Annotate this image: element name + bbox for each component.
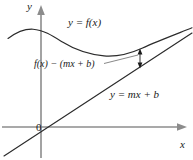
line-equation-label: y = mx + b [110,89,159,100]
y-axis-arrowhead [37,5,45,15]
y-axis-label: y [27,1,32,12]
x-axis-label: x [180,139,185,150]
function-curve [8,28,192,56]
x-axis-arrowhead [177,123,187,131]
asymptote-line [4,33,192,156]
asymptote-diagram: y x 0 y = f(x) y = mx + b f(x) − (mx + b… [0,0,193,160]
difference-expression-label: f(x) − (mx + b) [34,59,95,69]
origin-label: 0 [36,122,42,133]
curve-equation-label: y = f(x) [68,17,101,28]
